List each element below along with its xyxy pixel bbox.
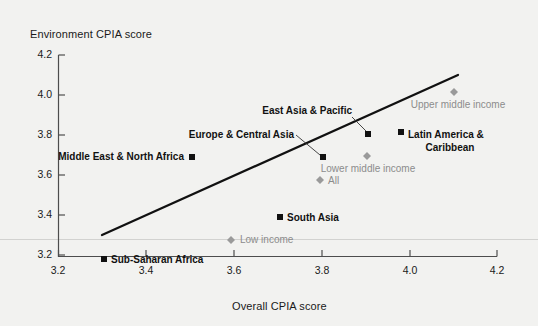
marker-lower-middle-income: [363, 152, 371, 160]
point-label-east-asia-pacific: East Asia & Pacific: [244, 104, 352, 117]
x-tick-label-3-2: 3.2: [43, 264, 73, 276]
x-axis-title: Overall CPIA score: [232, 300, 327, 312]
point-label-all: All: [328, 174, 339, 187]
x-tick-label-3-6: 3.6: [219, 264, 249, 276]
x-tick-label-4-2: 4.2: [482, 264, 512, 276]
plot-area: [0, 0, 538, 326]
point-label-europe-central-asia: Europe & Central Asia: [166, 128, 294, 141]
x-tick-label-3-8: 3.8: [307, 264, 337, 276]
marker-south-asia: [277, 214, 283, 220]
marker-europe-central-asia: [320, 154, 326, 160]
marker-sub-saharan-africa: [101, 256, 107, 262]
y-tick-label-3-2: 3.2: [28, 248, 52, 260]
marker-middle-east-north-africa: [189, 154, 195, 160]
x-tick-label-4-0: 4.0: [395, 264, 425, 276]
marker-latin-america-caribbean: [398, 129, 404, 135]
point-label-lower-middle-income: Lower middle income: [308, 162, 428, 175]
point-label-low-income: Low income: [240, 233, 293, 246]
point-label-south-asia: South Asia: [287, 211, 339, 224]
marker-all: [316, 176, 324, 184]
marker-low-income: [227, 236, 235, 244]
leader-lines: [296, 117, 366, 155]
marker-upper-middle-income: [450, 88, 458, 96]
point-label-sub-saharan-africa: Sub-Saharan Africa: [111, 253, 203, 266]
y-tick-label-3-6: 3.6: [28, 168, 52, 180]
y-tick-label-3-4: 3.4: [28, 208, 52, 220]
y-tick-label-4-0: 4.0: [28, 88, 52, 100]
point-label-middle-east-north-africa: Middle East & North Africa: [38, 150, 184, 163]
y-tick-label-3-8: 3.8: [28, 128, 52, 140]
y-axis-title: Environment CPIA score: [30, 28, 152, 40]
point-label-latin-america-caribbean-line2: Caribbean: [408, 141, 492, 154]
y-tick-label-4-2: 4.2: [28, 48, 52, 60]
chart-container: Environment CPIA score Overall CPIA scor…: [0, 0, 538, 326]
point-label-latin-america-caribbean-line1: Latin America &: [408, 128, 484, 141]
marker-east-asia-pacific: [365, 131, 371, 137]
point-label-upper-middle-income: Upper middle income: [398, 98, 518, 111]
